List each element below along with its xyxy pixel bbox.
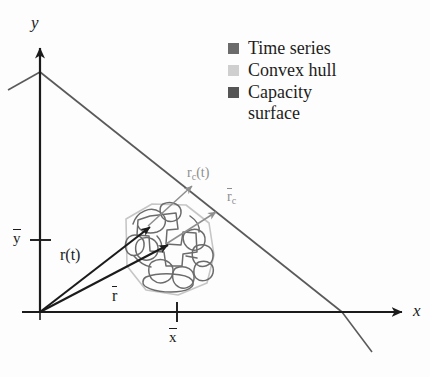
legend-label-capacity-surface: Capacity surface	[248, 82, 312, 124]
x-mean-tick-label: x	[169, 330, 177, 345]
vector-rc-t	[148, 186, 192, 226]
vector-r-t-label: r(t)	[60, 247, 80, 263]
vector-rc-t-label: rc(t)	[187, 166, 209, 182]
y-axis-label: y	[31, 14, 39, 31]
legend-item-time-series: Time series	[228, 38, 408, 59]
vector-r-t	[40, 227, 150, 312]
legend-label-convex-hull: Convex hull	[248, 60, 337, 81]
legend-item-capacity-surface: Capacity surface	[228, 82, 408, 124]
y-mean-tick-label: y	[13, 231, 21, 246]
legend-label-time-series: Time series	[248, 38, 331, 59]
x-axis	[22, 302, 402, 322]
legend-swatch-icon-capacity-surface	[228, 87, 239, 98]
y-axis	[30, 48, 51, 312]
legend-label-capacity-surface-line1: Capacity	[248, 82, 312, 102]
legend-swatch-icon-convex-hull	[228, 65, 239, 76]
legend: Time series Convex hull Capacity surface	[228, 38, 408, 125]
x-axis-label: x	[413, 302, 421, 319]
legend-swatch-icon-time-series	[228, 43, 239, 54]
vector-r-bar-label: r	[112, 288, 117, 304]
vector-rc-bar-label: rc	[227, 190, 236, 206]
legend-label-capacity-surface-line2: surface	[248, 103, 312, 124]
legend-item-convex-hull: Convex hull	[228, 60, 408, 81]
capacity-surface-diagram: y x x y r(t) r rc(t) rc Time series Conv…	[0, 0, 430, 377]
